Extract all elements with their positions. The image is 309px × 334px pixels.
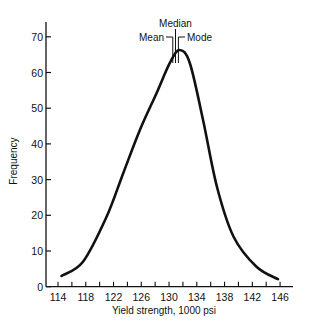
x-tick-label: 138: [216, 291, 234, 303]
x-tick-label: 118: [77, 291, 94, 303]
y-axis-title: Frequency: [8, 137, 19, 184]
frequency-distribution-chart: 010203040506070 114118122126130134138142…: [0, 0, 309, 334]
x-tick-label: 122: [105, 291, 123, 303]
x-tick-label: 146: [271, 291, 289, 303]
x-axis: 114118122126130134138142146: [46, 282, 293, 303]
y-tick-label: 0: [37, 281, 43, 293]
mode-label: Mode: [187, 32, 212, 43]
x-tick-label: 142: [244, 291, 262, 303]
median-label: Median: [159, 18, 192, 29]
y-tick-label: 50: [31, 102, 43, 114]
y-tick-label: 10: [31, 245, 43, 257]
x-tick-label: 126: [133, 291, 151, 303]
distribution-curve: [61, 50, 278, 279]
y-tick-label: 60: [31, 67, 43, 79]
x-tick-label: 134: [188, 291, 206, 303]
y-tick-label: 70: [31, 31, 43, 43]
mean-label: Mean: [139, 32, 164, 43]
x-tick-label: 130: [160, 291, 178, 303]
y-axis: 010203040506070: [31, 22, 51, 293]
x-tick-label: 114: [50, 291, 67, 303]
y-tick-label: 40: [31, 138, 43, 150]
y-tick-label: 30: [31, 174, 43, 186]
y-tick-label: 20: [31, 209, 43, 221]
x-axis-title: Yield strength, 1000 psi: [112, 305, 216, 316]
central-tendency-markers: MeanMedianMode: [139, 18, 212, 63]
